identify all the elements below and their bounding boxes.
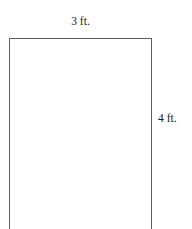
rectangle-right-edge	[151, 38, 152, 229]
figure-canvas: 3 ft. 4 ft.	[0, 0, 192, 229]
height-dimension-label: 4 ft.	[158, 112, 177, 125]
width-dimension-label: 3 ft.	[0, 15, 161, 28]
rectangle-top-edge	[9, 38, 152, 39]
rectangle-left-edge	[9, 38, 10, 229]
